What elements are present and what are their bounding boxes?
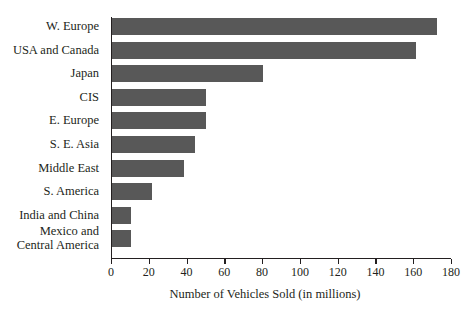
category-label: Middle East	[0, 162, 106, 175]
category-label: USA and Canada	[0, 44, 106, 57]
category-axis: W. EuropeUSA and CanadaJapanCISE. Europe…	[0, 18, 106, 258]
bar	[112, 42, 416, 59]
category-label: W. Europe	[0, 20, 106, 33]
x-tick-label: 140	[355, 265, 395, 279]
category-label: E. Europe	[0, 114, 106, 127]
x-tick	[375, 259, 376, 264]
category-label: S. E. Asia	[0, 138, 106, 151]
x-tick	[111, 259, 112, 264]
x-tick	[451, 259, 452, 264]
x-tick	[262, 259, 263, 264]
category-label: Mexico and Central America	[0, 225, 106, 252]
plot-area	[112, 18, 452, 258]
bar	[112, 183, 152, 200]
category-label: Japan	[0, 67, 106, 80]
x-tick	[224, 259, 225, 264]
y-axis-line	[111, 17, 112, 259]
x-tick	[338, 259, 339, 264]
x-tick-label: 180	[431, 265, 470, 279]
x-tick	[300, 259, 301, 264]
x-axis-title: Number of Vehicles Sold (in millions)	[0, 287, 470, 302]
bar	[112, 112, 206, 129]
bar	[112, 18, 437, 35]
x-tick-label: 0	[91, 265, 131, 279]
bar	[112, 160, 184, 177]
x-tick-label: 120	[318, 265, 358, 279]
x-tick-label: 160	[393, 265, 433, 279]
bar	[112, 89, 206, 106]
x-tick	[187, 259, 188, 264]
x-tick-label: 60	[204, 265, 244, 279]
category-label: CIS	[0, 91, 106, 104]
bar-chart: W. EuropeUSA and CanadaJapanCISE. Europe…	[0, 0, 470, 314]
x-tick	[149, 259, 150, 264]
x-tick-label: 40	[167, 265, 207, 279]
category-label: India and China	[0, 209, 106, 222]
x-axis-line	[111, 258, 451, 259]
x-tick-label: 80	[242, 265, 282, 279]
category-label: S. America	[0, 185, 106, 198]
bar	[112, 230, 131, 247]
bar	[112, 136, 195, 153]
x-tick	[413, 259, 414, 264]
bar	[112, 207, 131, 224]
x-tick-label: 100	[280, 265, 320, 279]
bar	[112, 65, 263, 82]
x-tick-label: 20	[129, 265, 169, 279]
